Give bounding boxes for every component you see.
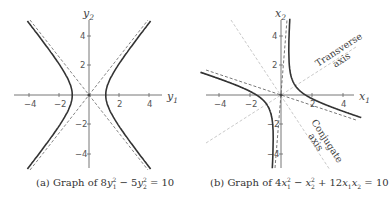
panel-a-caption: (a) Graph of 8y12 − 5y22 = 10 <box>36 176 174 190</box>
panel-b-xtick-label: −2 <box>245 99 258 109</box>
panel-a-plot: −4 −2 2 4 4 2 −2 −4 y1 y2 <box>14 7 178 170</box>
panel-a-ytick-label: 2 <box>80 60 85 70</box>
panel-b-ytick-label: 2 <box>272 60 277 70</box>
panel-a-xtick-label: −2 <box>54 99 67 109</box>
transverse-axis-annotation: Transverse axis <box>313 30 370 77</box>
panel-b-xtick-label: −4 <box>214 99 227 109</box>
panel-a-y2-label: y2 <box>82 7 94 22</box>
panel-a-xtick-label: 4 <box>147 99 152 109</box>
panel-b-origin-dot <box>280 94 283 97</box>
panel-a-ytick-label: 4 <box>80 31 85 41</box>
panel-a-y1-label: y1 <box>166 90 178 105</box>
panel-b-xtick-label: 4 <box>341 99 346 109</box>
panel-b-x2-label: x2 <box>275 7 286 22</box>
panel-a-ytick-label: −2 <box>75 119 88 129</box>
conjugate-axis-annotation: Conjugate axis <box>301 117 346 170</box>
panel-a-ytick-label: −4 <box>75 149 88 159</box>
panel-b-plot: −4 −2 2 4 4 2 −2 −4 x1 x2 Transverse axi… <box>201 7 370 170</box>
panel-a-origin-dot <box>87 93 90 96</box>
panel-a-xtick-label: 2 <box>117 99 122 109</box>
panel-b-x1-label: x1 <box>359 90 370 105</box>
panel-b-ytick-label: 4 <box>272 31 277 41</box>
panel-b-caption: (b) Graph of 4x12 − x22 + 12x1x2 = 10 <box>210 176 389 190</box>
panel-a-xtick-label: −4 <box>24 99 37 109</box>
